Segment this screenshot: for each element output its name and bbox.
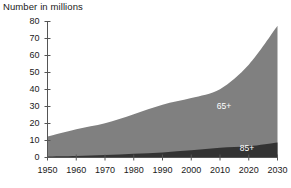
series-label-85plus: 85+ (240, 143, 254, 153)
chart-container: Number in millions 01020304050607080 195… (0, 0, 290, 188)
y-axis-tick-0: 0 (16, 152, 40, 162)
area-chart-plot (0, 0, 290, 188)
y-axis-tick-60: 60 (16, 50, 40, 60)
y-axis-tick-20: 20 (16, 118, 40, 128)
y-axis-tick-80: 80 (16, 16, 40, 26)
y-axis-tick-30: 30 (16, 101, 40, 111)
x-axis-tick-1990: 1990 (148, 165, 178, 175)
x-axis-tick-1980: 1980 (119, 165, 149, 175)
x-axis-tick-2030: 2030 (263, 165, 291, 175)
y-axis-tick-40: 40 (16, 84, 40, 94)
x-axis-tick-2010: 2010 (205, 165, 235, 175)
y-axis-tick-50: 50 (16, 67, 40, 77)
series-label-65plus: 65+ (217, 101, 231, 111)
x-axis-tick-2020: 2020 (234, 165, 264, 175)
area-series-65plus (48, 26, 278, 158)
y-axis-tick-10: 10 (16, 135, 40, 145)
x-axis-tick-1960: 1960 (61, 165, 91, 175)
x-axis-tick-1950: 1950 (33, 165, 63, 175)
x-axis-tick-1970: 1970 (90, 165, 120, 175)
x-axis-tick-2000: 2000 (176, 165, 206, 175)
y-axis-tick-70: 70 (16, 33, 40, 43)
